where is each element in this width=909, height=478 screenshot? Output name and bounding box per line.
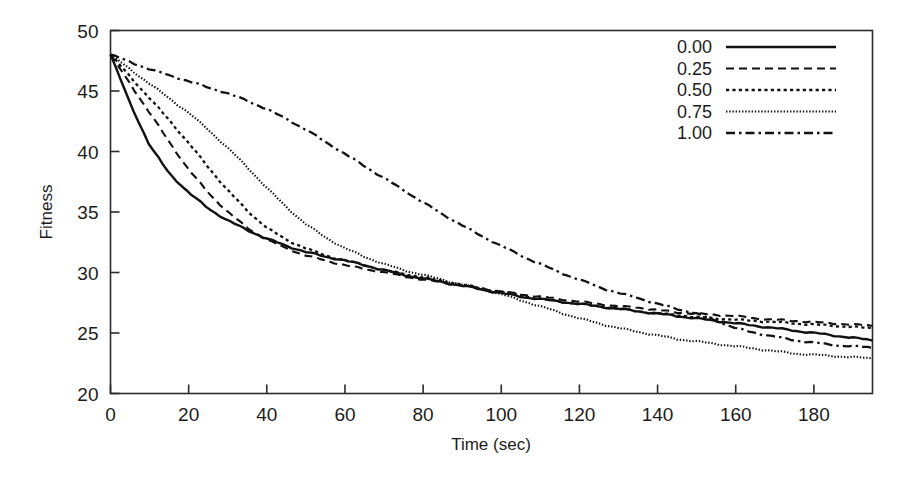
x-tick-label: 40 [256, 404, 277, 425]
y-tick-label: 25 [77, 323, 98, 344]
legend-label-0-50: 0.50 [677, 80, 712, 100]
chart-background [0, 0, 909, 478]
legend-label-0-75: 0.75 [677, 102, 712, 122]
x-axis-title: Time (sec) [451, 435, 531, 454]
x-tick-label: 20 [178, 404, 199, 425]
y-tick-label: 45 [77, 81, 98, 102]
y-tick-label: 35 [77, 202, 98, 223]
fitness-vs-time-chart: 20253035404550 020406080100120140160180 … [0, 0, 909, 478]
y-tick-label: 50 [77, 21, 98, 42]
x-tick-label: 160 [720, 404, 752, 425]
y-tick-label: 40 [77, 142, 98, 163]
x-tick-label: 80 [413, 404, 434, 425]
legend-label-1-00: 1.00 [677, 123, 712, 143]
x-tick-label: 120 [564, 404, 596, 425]
legend-label-0-25: 0.25 [677, 59, 712, 79]
y-axis-title: Fitness [37, 185, 56, 240]
x-tick-label: 100 [485, 404, 517, 425]
y-tick-label: 30 [77, 263, 98, 284]
x-tick-label: 0 [105, 404, 116, 425]
y-tick-label: 20 [77, 384, 98, 405]
legend-label-0-00: 0.00 [677, 37, 712, 57]
x-tick-label: 140 [642, 404, 674, 425]
x-tick-label: 180 [798, 404, 830, 425]
chart-canvas: 20253035404550 020406080100120140160180 … [0, 0, 909, 478]
x-tick-label: 60 [334, 404, 355, 425]
